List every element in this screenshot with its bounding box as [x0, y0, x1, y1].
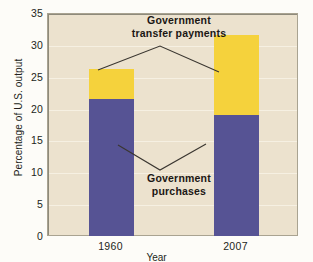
y-tick-5: 5 — [3, 198, 43, 210]
x-tick-1960: 1960 — [98, 240, 123, 252]
x-tick-2007: 2007 — [223, 240, 248, 252]
chart-figure: 35 30 25 20 15 10 5 0 Percentage of U.S.… — [0, 0, 313, 262]
gridline-20 — [48, 110, 297, 111]
annotation-government-purchases: Government purchases — [114, 172, 244, 198]
bar-1960-transfers — [89, 69, 134, 99]
bar-1960-purchases — [89, 99, 134, 236]
bar-2007-transfers — [214, 35, 259, 115]
y-axis-label: Percentage of U.S. output — [13, 38, 24, 198]
annotation-transfers-line1: Government — [104, 14, 254, 27]
y-tick-0: 0 — [3, 230, 43, 242]
annotation-transfers-line2: transfer payments — [104, 27, 254, 40]
gridline-30 — [48, 46, 297, 47]
annotation-purchases-line2: purchases — [114, 185, 244, 198]
annotation-transfer-payments: Government transfer payments — [104, 14, 254, 40]
x-axis-label: Year — [0, 252, 313, 262]
annotation-purchases-line1: Government — [114, 172, 244, 185]
y-tick-35: 35 — [3, 7, 43, 19]
gridline-15 — [48, 141, 297, 142]
gridline-25 — [48, 78, 297, 79]
gridline-5 — [48, 205, 297, 206]
plot-area — [47, 13, 298, 236]
